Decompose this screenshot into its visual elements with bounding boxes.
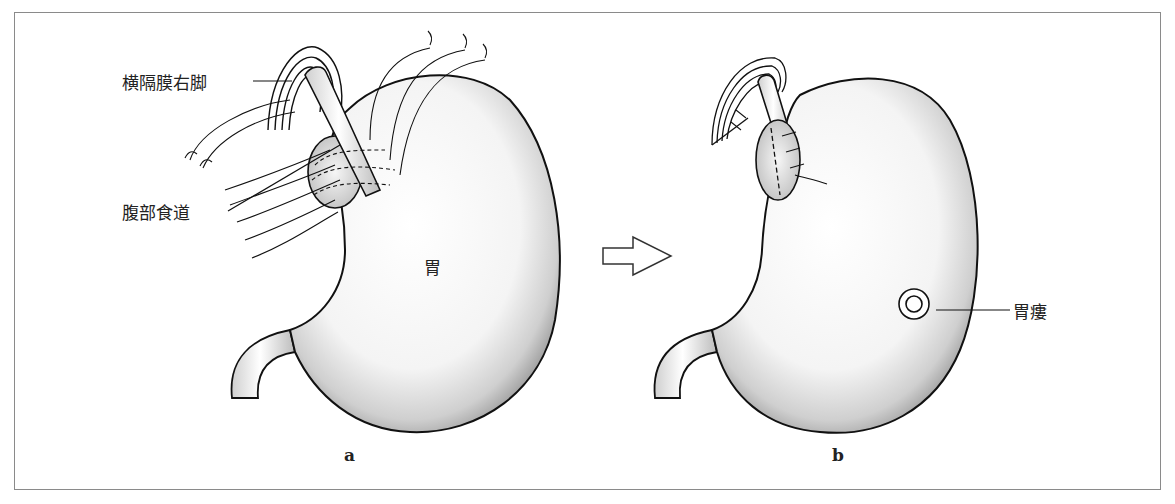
panel-a-illustration (185, 31, 560, 432)
label-diaphragm-right-crus: 横隔膜右脚 (122, 69, 207, 94)
panel-label-a: a (344, 445, 355, 465)
stomach-b (712, 79, 978, 433)
panel-label-b: b (832, 445, 844, 465)
label-stomach: 胃 (424, 254, 441, 279)
duodenum-b (655, 330, 717, 398)
right-arrow-icon (603, 237, 671, 275)
gastrostomy-inner-ring (906, 296, 922, 312)
fundoplication-wrap-b (756, 120, 800, 200)
duodenum-a (232, 330, 295, 398)
label-gastrostomy: 胃瘻 (1013, 298, 1047, 323)
label-abdominal-esophagus: 腹部食道 (122, 199, 190, 224)
panel-b-illustration (655, 58, 1010, 433)
